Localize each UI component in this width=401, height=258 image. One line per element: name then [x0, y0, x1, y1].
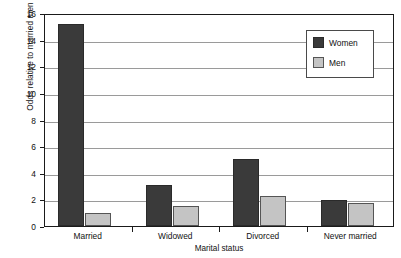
legend: Women Men — [306, 30, 374, 78]
y-tick-label: 0 — [14, 223, 36, 231]
x-tick-label: Divorced — [219, 231, 307, 241]
x-axis-title: Marital status — [44, 244, 394, 253]
y-tick-mark — [40, 41, 44, 42]
gridline — [45, 175, 393, 176]
y-tick-mark — [40, 121, 44, 122]
legend-item-women: Women — [313, 37, 358, 48]
x-tick-label: Widowed — [132, 231, 220, 241]
gridline — [45, 122, 393, 123]
gridline — [45, 95, 393, 96]
bar-women-married — [58, 24, 84, 226]
y-tick-label: 10 — [14, 90, 36, 98]
legend-swatch-men-icon — [313, 57, 324, 68]
bar-men-married — [85, 213, 111, 226]
y-tick-mark — [40, 147, 44, 148]
bar-women-divorced — [233, 159, 259, 226]
legend-label-women: Women — [329, 38, 358, 48]
legend-item-men: Men — [313, 57, 345, 68]
bar-men-never-married — [348, 203, 374, 226]
bar-women-never-married — [321, 200, 347, 226]
y-tick-label: 2 — [14, 196, 36, 204]
legend-label-men: Men — [329, 58, 345, 68]
y-axis-title: Odds relative to married men — [26, 0, 35, 157]
legend-swatch-women-icon — [313, 37, 324, 48]
y-tick-label: 4 — [14, 170, 36, 178]
y-tick-label: 6 — [14, 143, 36, 151]
y-tick-label: 14 — [14, 37, 36, 45]
y-tick-mark — [40, 14, 44, 15]
y-tick-label: 16 — [14, 10, 36, 18]
y-tick-mark — [40, 94, 44, 95]
x-tick-mark — [132, 227, 133, 232]
y-tick-mark — [40, 67, 44, 68]
gridline — [45, 148, 393, 149]
x-tick-mark — [219, 227, 220, 232]
x-tick-mark — [307, 227, 308, 232]
y-tick-mark — [40, 227, 44, 228]
bar-women-widowed — [146, 185, 172, 226]
bar-men-divorced — [260, 196, 286, 226]
y-tick-label: 12 — [14, 63, 36, 71]
y-tick-mark — [40, 174, 44, 175]
bar-men-widowed — [173, 206, 199, 226]
x-tick-label: Married — [44, 231, 132, 241]
x-tick-label: Never married — [307, 231, 395, 241]
y-tick-mark — [40, 200, 44, 201]
bar-chart: Odds relative to married men 02468101214… — [0, 0, 401, 258]
y-tick-label: 8 — [14, 117, 36, 125]
